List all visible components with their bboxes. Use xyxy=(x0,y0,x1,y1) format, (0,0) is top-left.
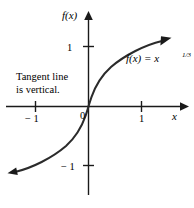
curve-arrow-lower-left-icon xyxy=(8,167,18,175)
origin-label: 0 xyxy=(80,110,85,121)
cube-root-function-graph: f(x) x − 1 1 1 − 1 0 Tangent line is ver… xyxy=(0,0,194,208)
tangent-note-line-1: Tangent line xyxy=(16,71,68,82)
function-label-exponent: 1/3 xyxy=(182,51,191,59)
y-axis-arrow-icon xyxy=(84,11,93,20)
graph-canvas: f(x) x − 1 1 1 − 1 0 Tangent line is ver… xyxy=(0,0,194,208)
x-axis-arrow-icon xyxy=(180,102,189,111)
curve-arrow-upper-right-icon xyxy=(160,36,171,45)
y-tick-label-pos-1: 1 xyxy=(67,42,72,53)
tangent-note-line-2: is vertical. xyxy=(16,84,60,95)
x-tick-label-neg-1: − 1 xyxy=(25,113,39,124)
y-tick-label-neg-1: − 1 xyxy=(61,161,75,172)
y-axis-label: f(x) xyxy=(62,9,78,22)
x-tick-label-pos-1: 1 xyxy=(139,113,144,124)
function-label: f(x) = x xyxy=(126,52,159,65)
x-axis-label: x xyxy=(171,110,177,122)
